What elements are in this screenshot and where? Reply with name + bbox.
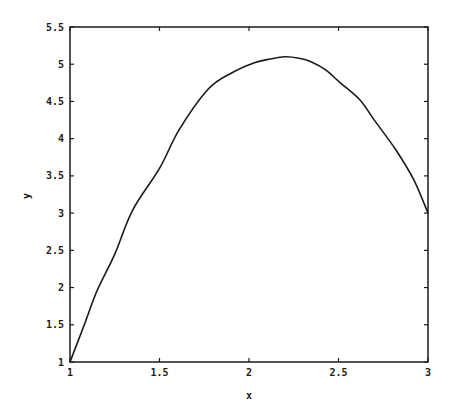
y-tick-label: 4.5 <box>46 96 64 107</box>
y-tick-label: 3.5 <box>46 170 64 181</box>
x-axis-label: x <box>246 390 252 401</box>
y-tick-label: 4 <box>58 133 64 144</box>
x-tick-label: 2 <box>246 367 252 378</box>
x-tick-label: 2.5 <box>329 367 347 378</box>
y-tick-label: 3 <box>58 208 64 219</box>
y-axis-ticks: 11.522.533.544.555.5 <box>46 22 428 368</box>
y-axis-label: y <box>21 193 32 199</box>
y-tick-label: 2 <box>58 282 64 293</box>
y-tick-label: 1 <box>58 357 64 368</box>
x-tick-label: 1.5 <box>150 367 168 378</box>
y-tick-label: 1.5 <box>46 319 64 330</box>
x-axis-ticks: 11.522.53 <box>67 27 431 378</box>
x-tick-label: 3 <box>425 367 431 378</box>
data-curve <box>70 57 428 362</box>
y-tick-label: 2.5 <box>46 245 64 256</box>
y-tick-label: 5.5 <box>46 22 64 33</box>
y-tick-label: 5 <box>58 59 64 70</box>
line-chart: 11.522.533.544.555.5 11.522.53 x y <box>0 0 450 420</box>
x-tick-label: 1 <box>67 367 73 378</box>
plot-frame <box>70 27 428 362</box>
